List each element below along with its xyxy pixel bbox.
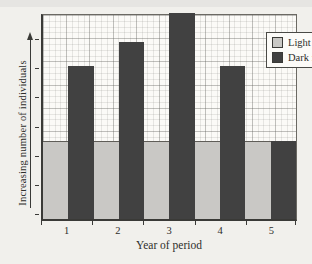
dark-form-bar-year-2: [119, 42, 144, 219]
light-form-bar-year-5: [245, 141, 270, 219]
legend-label-dark-form: Dark form: [288, 52, 312, 63]
x-tick-label-4: 4: [195, 225, 246, 236]
x-category-labels: 12345: [41, 225, 297, 236]
light-form-bar-year-2: [94, 141, 119, 219]
x-axis-title: Year of period: [41, 239, 297, 251]
year-group-2: [94, 15, 145, 219]
x-tick-label-3: 3: [143, 225, 194, 236]
legend-label-light-form: Light form: [288, 37, 312, 48]
dark-form-bar-year-1: [68, 66, 93, 219]
legend-row-dark-form: Dark form: [272, 52, 312, 63]
legend-row-light-form: Light form: [272, 37, 312, 48]
dark-form-bar-year-4: [220, 66, 245, 219]
y-axis-title: Increasing number of individuals: [17, 60, 28, 206]
year-group-4: [195, 15, 246, 219]
light-form-bar-year-3: [144, 141, 169, 219]
light-form-swatch-icon: [272, 37, 283, 48]
light-form-bar-year-4: [195, 141, 220, 219]
y-axis-tick: [35, 185, 39, 186]
dark-form-swatch-icon: [272, 52, 283, 63]
plot-area: Light form Dark form: [41, 14, 297, 221]
y-axis-tick: [35, 214, 39, 215]
x-tick-label-5: 5: [246, 225, 297, 236]
page-top-strip: [0, 0, 312, 7]
x-tick-label-1: 1: [41, 225, 92, 236]
y-axis-tick: [35, 156, 39, 157]
legend: Light form Dark form: [266, 32, 312, 68]
bars-container: [43, 15, 296, 219]
year-group-1: [43, 15, 94, 219]
y-axis-arrow-line: [30, 40, 31, 208]
y-axis-tick: [35, 68, 39, 69]
chart-page: Increasing number of individuals Light f…: [0, 0, 312, 264]
x-tick-label-2: 2: [92, 225, 143, 236]
y-axis-tick: [35, 39, 39, 40]
dark-form-bar-year-5: [271, 141, 296, 219]
dark-form-bar-year-3: [169, 13, 194, 219]
y-axis-tick: [35, 97, 39, 98]
year-group-3: [144, 15, 195, 219]
y-axis-arrow-up-icon: [27, 32, 33, 40]
y-axis-tick: [35, 127, 39, 128]
light-form-bar-year-1: [43, 141, 68, 219]
